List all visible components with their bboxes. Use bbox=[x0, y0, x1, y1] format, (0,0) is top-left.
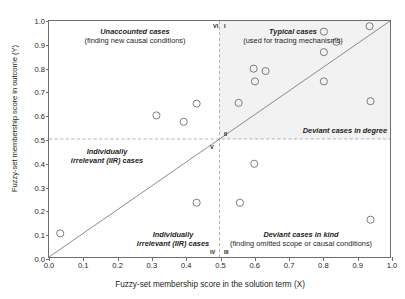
data-point bbox=[153, 112, 160, 119]
x-tick-mark bbox=[118, 257, 119, 261]
y-tick-mark bbox=[46, 188, 50, 189]
annotation-deviant-cases-in-kind-line2: (finding omitted scope or causal conditi… bbox=[230, 239, 372, 248]
x-tick-mark bbox=[289, 257, 290, 261]
y-tick-mark bbox=[46, 69, 50, 70]
data-point bbox=[193, 199, 200, 206]
data-point bbox=[251, 160, 258, 167]
annotation-unaccounted-cases-line2: (finding new causal conditions) bbox=[84, 36, 185, 45]
x-tick-label: 1.0 bbox=[387, 261, 398, 270]
x-tick-label: 0.1 bbox=[78, 261, 89, 270]
x-tick-mark bbox=[221, 257, 222, 261]
annotation-iir-lower-middle-line2: irrelevant (IIR) cases bbox=[137, 239, 209, 248]
annotation-iir-upper-left: Individually irrelevant (IIR) cases bbox=[71, 147, 143, 166]
y-tick-label: 1.0 bbox=[34, 17, 45, 26]
numeral-V: V bbox=[210, 144, 214, 150]
annotation-iir-lower-middle: Individually irrelevant (IIR) cases bbox=[137, 230, 209, 249]
y-tick-mark bbox=[46, 211, 50, 212]
y-tick-mark bbox=[46, 45, 50, 46]
x-tick-label: 0.9 bbox=[352, 261, 363, 270]
y-tick-mark bbox=[46, 235, 50, 236]
plot-canvas bbox=[49, 21, 390, 257]
y-tick-mark bbox=[46, 140, 50, 141]
x-tick-label: 0.3 bbox=[147, 261, 158, 270]
data-point bbox=[193, 100, 200, 107]
y-tick-label: 0.2 bbox=[34, 207, 45, 216]
x-axis-label: Fuzzy-set membership score in the soluti… bbox=[40, 280, 380, 289]
annotation-unaccounted-cases-line1: Unaccounted cases bbox=[84, 27, 185, 36]
x-tick-label: 0.0 bbox=[44, 261, 55, 270]
y-tick-label: 0.1 bbox=[34, 231, 45, 240]
numeral-I: I bbox=[224, 23, 226, 29]
x-tick-mark bbox=[255, 257, 256, 261]
x-tick-label: 0.2 bbox=[112, 261, 123, 270]
y-tick-mark bbox=[46, 21, 50, 22]
data-point bbox=[367, 216, 374, 223]
x-tick-label: 0.6 bbox=[250, 261, 261, 270]
annotation-deviant-cases-in-kind-line1: Deviant cases in kind bbox=[230, 230, 372, 239]
annotation-iir-upper-left-line2: irrelevant (IIR) cases bbox=[71, 156, 143, 165]
data-point bbox=[236, 199, 243, 206]
x-tick-mark bbox=[83, 257, 84, 261]
x-tick-mark bbox=[152, 257, 153, 261]
y-tick-label: 0.4 bbox=[34, 159, 45, 168]
annotation-typical-cases: Typical cases (used for tracing mechanis… bbox=[243, 27, 342, 46]
annotation-unaccounted-cases: Unaccounted cases (finding new causal co… bbox=[84, 27, 185, 46]
x-tick-mark bbox=[323, 257, 324, 261]
y-tick-label: 0.3 bbox=[34, 183, 45, 192]
x-tick-label: 0.7 bbox=[284, 261, 295, 270]
y-tick-label: 0.6 bbox=[34, 112, 45, 121]
data-point bbox=[180, 118, 187, 125]
y-tick-label: 0.5 bbox=[34, 136, 45, 145]
annotation-typical-cases-line2: (used for tracing mechanisms) bbox=[243, 36, 342, 45]
x-tick-mark bbox=[49, 257, 50, 261]
scatter-plot-figure: Fuzzy-set membership score in outcome (Y… bbox=[0, 0, 405, 299]
numeral-II: II bbox=[224, 131, 227, 137]
y-axis-label: Fuzzy-set membership score in outcome (Y… bbox=[10, 19, 19, 219]
x-tick-mark bbox=[186, 257, 187, 261]
numeral-IV: IV bbox=[210, 249, 215, 255]
y-tick-mark bbox=[46, 92, 50, 93]
x-tick-label: 0.5 bbox=[215, 261, 226, 270]
y-tick-label: 0.7 bbox=[34, 88, 45, 97]
y-tick-mark bbox=[46, 116, 50, 117]
numeral-III: III bbox=[224, 249, 229, 255]
y-tick-mark bbox=[46, 164, 50, 165]
annotation-typical-cases-line1: Typical cases bbox=[243, 27, 342, 36]
y-tick-label: 0.9 bbox=[34, 40, 45, 49]
x-tick-label: 0.4 bbox=[181, 261, 192, 270]
x-tick-mark bbox=[392, 257, 393, 261]
annotation-deviant-cases-in-kind: Deviant cases in kind (finding omitted s… bbox=[230, 230, 372, 249]
x-tick-mark bbox=[358, 257, 359, 261]
annotation-iir-upper-left-line1: Individually bbox=[71, 147, 143, 156]
x-tick-label: 0.8 bbox=[318, 261, 329, 270]
y-tick-label: 0.8 bbox=[34, 64, 45, 73]
annotation-deviant-cases-in-degree: Deviant cases in degree bbox=[303, 126, 387, 135]
plot-area: 0.00.10.20.30.40.50.60.70.80.91.0 0.00.1… bbox=[48, 20, 391, 258]
numeral-VI: VI bbox=[213, 23, 218, 29]
annotation-deviant-cases-in-degree-line1: Deviant cases in degree bbox=[303, 126, 387, 135]
data-point bbox=[57, 230, 64, 237]
annotation-iir-lower-middle-line1: Individually bbox=[137, 230, 209, 239]
